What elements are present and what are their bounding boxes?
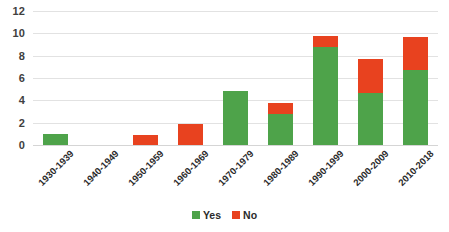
bar-segment-no[interactable] xyxy=(313,36,338,47)
bar-segment-yes[interactable] xyxy=(223,91,248,145)
y-tick-label: 10 xyxy=(13,27,25,39)
y-tick-label: 8 xyxy=(19,50,25,62)
bar-chart: 024681012 1930-19391940-19491950-1959196… xyxy=(0,0,449,232)
legend-item-no[interactable]: No xyxy=(232,209,257,221)
plot-area xyxy=(33,11,438,145)
bar-segment-no[interactable] xyxy=(268,103,293,114)
bar-segment-no[interactable] xyxy=(178,124,203,145)
bar-segment-yes[interactable] xyxy=(43,134,68,145)
x-axis: 1930-19391940-19491950-19591960-19691970… xyxy=(33,148,438,206)
bar-segment-yes[interactable] xyxy=(358,93,383,145)
bar-segment-no[interactable] xyxy=(403,37,428,71)
gridline-8 xyxy=(33,56,438,57)
y-tick-label: 6 xyxy=(19,72,25,84)
legend-item-yes[interactable]: Yes xyxy=(192,209,221,221)
y-tick-label: 12 xyxy=(13,5,25,17)
y-tick-label: 2 xyxy=(19,117,25,129)
chart-legend: YesNo xyxy=(0,209,449,221)
y-axis: 024681012 xyxy=(0,0,30,156)
bar-segment-no[interactable] xyxy=(133,135,158,145)
gridline-12 xyxy=(33,11,438,12)
legend-swatch-no xyxy=(232,211,240,219)
bar-segment-yes[interactable] xyxy=(313,47,338,145)
bar-segment-no[interactable] xyxy=(358,59,383,93)
y-tick-label: 0 xyxy=(19,139,25,151)
gridline-0 xyxy=(33,145,438,146)
gridline-10 xyxy=(33,33,438,34)
legend-swatch-yes xyxy=(192,211,200,219)
bar-segment-yes[interactable] xyxy=(403,70,428,145)
y-tick-label: 4 xyxy=(19,94,25,106)
legend-label: Yes xyxy=(203,209,221,221)
bar-segment-yes[interactable] xyxy=(268,114,293,145)
legend-label: No xyxy=(243,209,257,221)
